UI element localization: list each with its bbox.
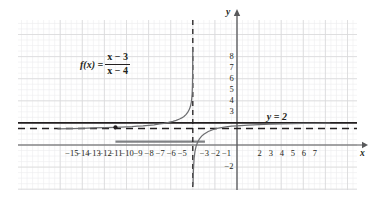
y-tick-6: 6	[230, 74, 234, 83]
function-fraction: x − 3 x − 4	[105, 52, 130, 76]
x-tick--8: −8	[145, 149, 154, 158]
y-tick-7: 7	[230, 63, 234, 72]
x-tick-3: 3	[269, 149, 273, 158]
y-tick-3: 3	[230, 107, 234, 116]
x-tick--10: −10	[121, 149, 134, 158]
x-tick-6: 6	[302, 149, 306, 158]
y-tick-5: 5	[230, 85, 234, 94]
grid-minor-lines	[18, 20, 357, 190]
x-tick-2: 2	[258, 149, 262, 158]
x-tick--5: −5	[178, 149, 187, 158]
y-tick--2: −2	[225, 162, 234, 171]
coordinate-plane	[0, 0, 372, 200]
marked-points	[113, 125, 117, 129]
x-tick--3: −3	[200, 149, 209, 158]
function-lhs: f(x) =	[80, 59, 103, 70]
x-tick-5: 5	[291, 149, 295, 158]
fraction-numerator: x − 3	[105, 52, 130, 63]
fraction-denominator: x − 4	[105, 66, 130, 77]
x-tick--9: −9	[134, 149, 143, 158]
y-axis-name: y	[226, 8, 230, 18]
x-tick--1: −1	[222, 149, 231, 158]
horizontal-line-label: y = 2	[267, 112, 287, 122]
y-tick-4: 4	[230, 96, 234, 105]
y-tick-8: 8	[230, 52, 234, 61]
x-tick-7: 7	[313, 149, 317, 158]
x-tick--7: −7	[156, 149, 165, 158]
graph-figure: −15−14−13−12−11−10−9−8−7−6−5−3−2−1234567…	[0, 0, 372, 200]
x-axis-name: x	[360, 149, 365, 159]
x-tick--2: −2	[211, 149, 220, 158]
function-equation-label: f(x) = x − 3 x − 4	[80, 52, 130, 76]
x-tick--6: −6	[167, 149, 176, 158]
x-tick-4: 4	[280, 149, 284, 158]
